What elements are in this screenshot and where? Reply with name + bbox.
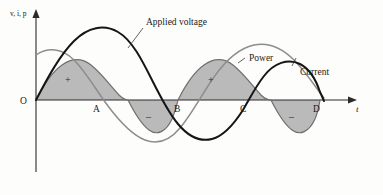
x-axis-label: t xyxy=(356,104,359,114)
power-waveform-figure: v, i, p t O Applied voltage Power Curren… xyxy=(0,0,383,195)
region-sign-negative-1: – xyxy=(145,111,152,122)
power-label: Power xyxy=(249,53,274,63)
axis-mark-d-label: D xyxy=(313,104,320,114)
origin-label: O xyxy=(20,96,27,106)
applied-voltage-leader-line xyxy=(128,28,143,48)
region-sign-positive-1: + xyxy=(65,74,71,85)
waveform-svg: v, i, p t O Applied voltage Power Curren… xyxy=(0,0,383,195)
power-region-negative-1 xyxy=(128,100,178,133)
axis-mark-c-label: C xyxy=(240,104,246,114)
y-axis-arrow-icon xyxy=(32,9,39,18)
power-region-positive-2 xyxy=(178,60,271,100)
region-sign-negative-2: – xyxy=(288,111,295,122)
applied-voltage-label: Applied voltage xyxy=(146,17,207,27)
y-axis-label: v, i, p xyxy=(10,9,27,18)
current-label: Current xyxy=(300,67,329,77)
power-shaded-regions xyxy=(36,60,320,133)
region-sign-positive-2: + xyxy=(208,74,214,85)
x-axis-arrow-icon xyxy=(348,96,357,103)
power-region-positive-1 xyxy=(36,60,128,100)
axis-mark-a-label: A xyxy=(93,104,100,114)
axis-mark-b-label: B xyxy=(174,104,180,114)
power-leader-line xyxy=(238,58,245,63)
